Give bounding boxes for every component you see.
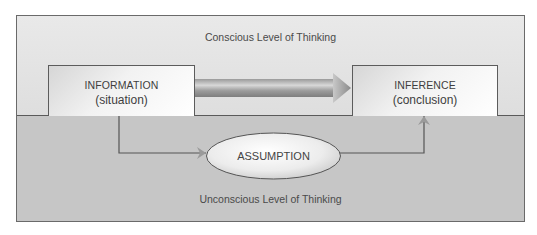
connectors-layer: [17, 16, 525, 222]
assumption-label: ASSUMPTION: [206, 133, 341, 179]
diagram-frame: Conscious Level of Thinking Unconscious …: [16, 15, 525, 222]
assumption-to-inference-connector: [340, 116, 430, 153]
information-to-assumption-connector: [119, 116, 206, 159]
main-arrow-icon: [195, 73, 351, 103]
